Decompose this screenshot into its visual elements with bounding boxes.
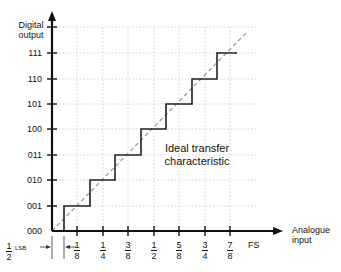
- frac-num: 5: [176, 240, 181, 250]
- frac-num: 1: [151, 240, 156, 250]
- x-tick-1-4: 14: [97, 240, 109, 261]
- y-axis-label-line2: output: [14, 30, 48, 40]
- frac-num: 1: [74, 240, 79, 250]
- y-code-111: 111: [12, 48, 42, 58]
- frac-num: 1: [100, 240, 105, 250]
- frac-den: 8: [125, 251, 130, 261]
- frac-den: 4: [100, 251, 105, 261]
- frac-num: 1: [6, 241, 11, 251]
- x-axis-label: Analogue input: [292, 225, 330, 245]
- y-code-010: 010: [12, 175, 42, 185]
- frac-den: 4: [202, 251, 207, 261]
- x-axis-arrow-icon: [273, 227, 283, 235]
- frac-num: 3: [125, 240, 130, 250]
- y-axis-arrow-icon: [48, 11, 56, 21]
- transfer-characteristic-plot: [0, 0, 341, 272]
- x-axis-label-line1: Analogue: [292, 225, 330, 235]
- half-lsb-arrow-left-icon: [46, 245, 51, 249]
- half-lsb-fraction: 12: [3, 241, 15, 262]
- y-code-101: 101: [12, 99, 42, 109]
- x-axis-label-line2: input: [292, 235, 330, 245]
- x-tick-3-4: 34: [199, 240, 211, 261]
- frac-den: 2: [151, 251, 156, 261]
- x-tick-7-8: 78: [224, 240, 236, 261]
- x-tick-1-2: 12: [148, 240, 160, 261]
- frac-den: 8: [227, 251, 232, 261]
- y-code-000: 000: [12, 226, 42, 236]
- frac-num: 7: [227, 240, 232, 250]
- x-tick-1-8: 18: [71, 240, 83, 261]
- y-axis-label: Digital output: [14, 20, 48, 40]
- full-scale-label: FS: [248, 240, 260, 250]
- y-code-110: 110: [12, 74, 42, 84]
- y-code-001: 001: [12, 201, 42, 211]
- ideal-transfer-annotation: Ideal transfer characteristic: [154, 142, 240, 168]
- frac-den: 8: [176, 251, 181, 261]
- x-tick-5-8: 58: [173, 240, 185, 261]
- half-lsb-unit: LSB: [15, 243, 26, 253]
- frac-den: 8: [74, 251, 79, 261]
- y-code-100: 100: [12, 124, 42, 134]
- annotation-line1: Ideal transfer: [154, 142, 240, 155]
- half-lsb-arrow-right-icon: [65, 245, 70, 249]
- frac-num: 3: [202, 240, 207, 250]
- x-tick-3-8: 38: [122, 240, 134, 261]
- y-axis-label-line1: Digital: [14, 20, 48, 30]
- annotation-line2: characteristic: [154, 155, 240, 168]
- frac-den: 2: [6, 252, 11, 262]
- y-code-011: 011: [12, 150, 42, 160]
